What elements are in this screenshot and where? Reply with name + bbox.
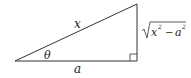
right-triangle-diagram: x θ a x 2 − a 2 <box>0 0 191 78</box>
svg-text:2: 2 <box>181 23 186 30</box>
adjacent-side-label: a <box>74 62 81 76</box>
svg-text:−: − <box>165 27 173 38</box>
svg-text:a: a <box>175 26 182 39</box>
triangle-outline <box>15 4 137 61</box>
hypotenuse-label: x <box>74 17 81 31</box>
svg-text:2: 2 <box>157 23 162 30</box>
svg-text:x: x <box>151 26 158 39</box>
right-angle-marker <box>130 54 137 61</box>
angle-theta-label: θ <box>44 49 51 62</box>
opposite-side-label: x 2 − a 2 <box>142 22 186 39</box>
